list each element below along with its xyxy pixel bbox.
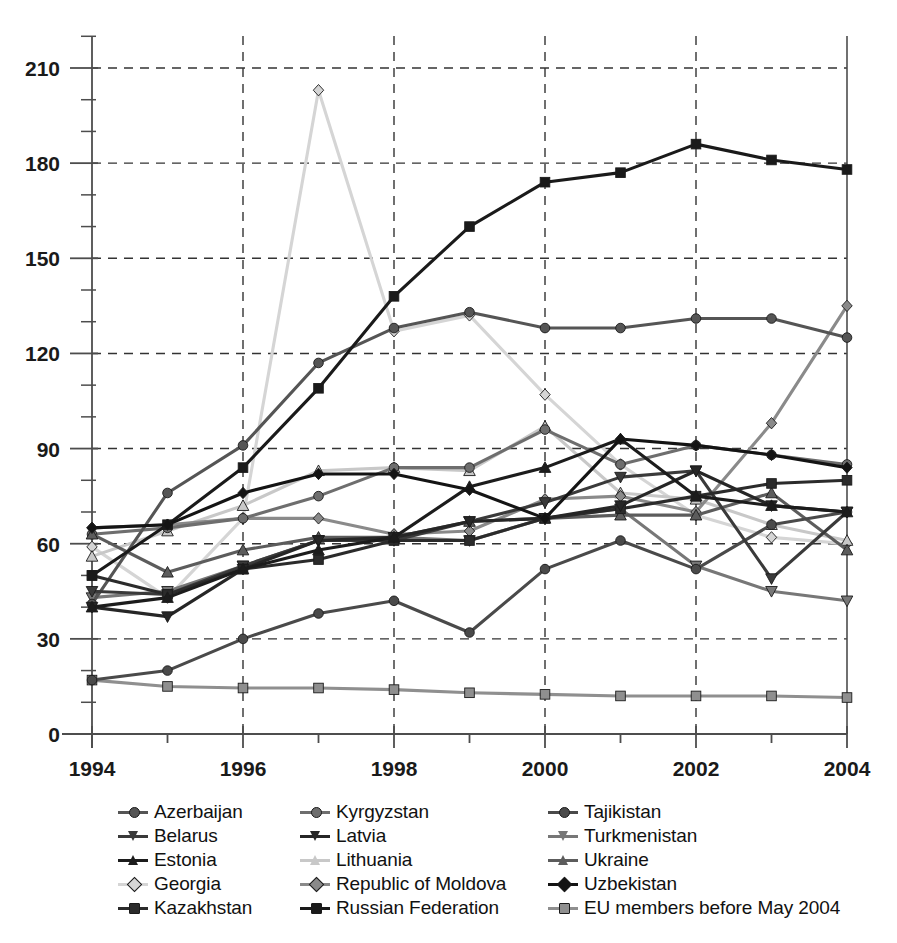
y-tick-label: 90 — [37, 438, 60, 461]
data-point-circle — [87, 675, 97, 685]
legend-marker-triangle-down-icon — [548, 826, 578, 846]
legend-column-2: KyrgyzstanLatviaLithuaniaRepublic of Mol… — [300, 800, 506, 920]
data-point-square — [767, 691, 777, 701]
legend-key-marker — [557, 877, 573, 893]
data-point-circle — [691, 314, 701, 324]
legend-key-marker — [311, 807, 322, 818]
legend-marker-triangle-up-icon — [118, 850, 148, 870]
data-point-diamond — [313, 85, 323, 96]
legend-item-label: Latvia — [336, 825, 386, 847]
legend-item[interactable]: EU members before May 2004 — [548, 896, 840, 920]
legend-key-marker — [309, 877, 325, 893]
legend-item-label: Ukraine — [584, 849, 649, 871]
legend-item[interactable]: Turkmenistan — [548, 824, 840, 848]
data-point-triangle-up — [766, 487, 778, 498]
legend-key-marker — [128, 831, 138, 841]
data-point-square — [767, 155, 777, 165]
legend-item-label: Tajikistan — [584, 801, 661, 823]
data-point-square — [163, 682, 173, 692]
data-point-circle — [314, 491, 324, 501]
legend-marker-circle-icon — [300, 802, 330, 822]
data-point-circle — [465, 628, 475, 638]
data-point-circle — [238, 514, 248, 524]
legend-item-label: Azerbaijan — [154, 801, 243, 823]
y-tick-label: 210 — [25, 57, 60, 80]
legend-key-marker — [558, 831, 568, 841]
legend-item[interactable]: Tajikistan — [548, 800, 840, 824]
legend-item[interactable]: Republic of Moldova — [300, 872, 506, 896]
data-point-circle — [842, 333, 852, 343]
data-point-square — [540, 177, 550, 187]
data-point-square — [540, 690, 550, 700]
legend-item[interactable]: Azerbaijan — [118, 800, 252, 824]
data-point-circle — [163, 488, 173, 498]
data-point-circle — [691, 564, 701, 574]
data-point-diamond — [313, 513, 323, 524]
legend-item[interactable]: Estonia — [118, 848, 252, 872]
legend-item-label: Turkmenistan — [584, 825, 697, 847]
y-tick-label: 180 — [25, 152, 60, 175]
data-point-square — [465, 222, 475, 232]
legend-item[interactable]: Ukraine — [548, 848, 840, 872]
data-point-triangle-down — [766, 574, 778, 585]
data-point-circle — [238, 634, 248, 644]
legend-key-marker — [127, 877, 143, 893]
legend-item[interactable]: Georgia — [118, 872, 252, 896]
legend-item-label: Kyrgyzstan — [336, 801, 429, 823]
legend-key-marker — [129, 807, 140, 818]
data-point-circle — [767, 520, 777, 530]
data-point-square — [238, 463, 248, 473]
legend-item[interactable]: Kazakhstan — [118, 896, 252, 920]
legend-item-label: EU members before May 2004 — [584, 897, 840, 919]
data-point-circle — [163, 666, 173, 676]
data-point-circle — [767, 314, 777, 324]
y-tick-label: 150 — [25, 247, 60, 270]
legend-marker-diamond-icon — [118, 874, 148, 894]
legend-item-label: Georgia — [154, 873, 221, 895]
legend-column-3: TajikistanTurkmenistanUkraineUzbekistanE… — [548, 800, 840, 920]
legend-column-1: AzerbaijanBelarusEstoniaGeorgiaKazakhsta… — [118, 800, 252, 920]
legend-marker-square-icon — [300, 898, 330, 918]
data-point-circle — [616, 460, 626, 470]
legend-item[interactable]: Kyrgyzstan — [300, 800, 506, 824]
series-eu-members-before-may-2004 — [87, 675, 852, 702]
data-point-circle — [465, 307, 475, 317]
data-point-square — [314, 384, 324, 394]
x-tick-label: 2002 — [673, 757, 720, 780]
legend-key-marker — [128, 855, 138, 865]
legend-item[interactable]: Latvia — [300, 824, 506, 848]
data-point-square — [842, 475, 852, 485]
legend-item-label: Republic of Moldova — [336, 873, 506, 895]
data-point-diamond — [691, 440, 701, 451]
legend-item[interactable]: Lithuania — [300, 848, 506, 872]
x-tick-label: 1996 — [220, 757, 267, 780]
legend-item[interactable]: Uzbekistan — [548, 872, 840, 896]
legend-key-marker — [129, 903, 140, 914]
data-point-circle — [238, 441, 248, 451]
legend-marker-diamond-icon — [548, 874, 578, 894]
chart-page: 0306090120150180210199419961998200020022… — [0, 0, 897, 943]
legend-marker-triangle-up-icon — [300, 850, 330, 870]
legend-key-marker — [559, 807, 570, 818]
data-point-circle — [616, 536, 626, 546]
legend-item-label: Kazakhstan — [154, 897, 252, 919]
x-tick-label: 2000 — [522, 757, 569, 780]
data-point-circle — [540, 564, 550, 574]
data-point-circle — [540, 323, 550, 333]
data-point-circle — [389, 323, 399, 333]
legend-marker-diamond-icon — [300, 874, 330, 894]
data-point-square — [238, 683, 248, 693]
data-point-square — [389, 292, 399, 302]
data-point-square — [767, 479, 777, 489]
legend-item[interactable]: Belarus — [118, 824, 252, 848]
data-point-square — [389, 685, 399, 695]
x-tick-label: 2004 — [824, 757, 871, 780]
y-tick-label: 0 — [48, 723, 60, 746]
legend-marker-square-icon — [118, 898, 148, 918]
data-point-circle — [314, 609, 324, 619]
legend-item[interactable]: Russian Federation — [300, 896, 506, 920]
data-point-diamond — [766, 449, 776, 460]
data-point-square — [465, 536, 475, 546]
legend-key-marker — [558, 855, 568, 865]
data-point-diamond — [766, 532, 776, 543]
